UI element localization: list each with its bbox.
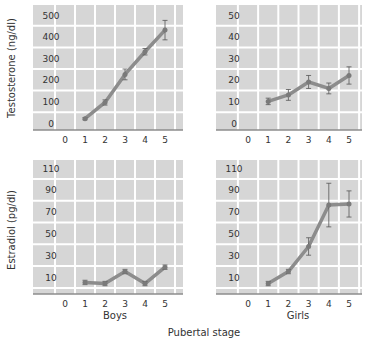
x-tick-label: 2 — [102, 135, 108, 145]
data-point — [306, 244, 311, 249]
y-tick-label: 50 — [45, 229, 57, 239]
y-tick-label: 20 — [228, 75, 240, 85]
x-tick-label: 5 — [346, 299, 352, 309]
figure: 0100200300400500012345010203040500123451… — [0, 0, 371, 341]
y-tick-label: 0 — [231, 119, 237, 129]
y-tick-label: 30 — [228, 54, 240, 64]
x-tick-label: 3 — [122, 299, 128, 309]
x-tick-label: 5 — [162, 135, 168, 145]
data-point — [123, 269, 128, 274]
x-tick-label: 3 — [306, 135, 312, 145]
x-tick-label: 1 — [82, 135, 88, 145]
data-point — [266, 281, 271, 286]
y-tick-label: 30 — [45, 251, 57, 261]
data-point — [163, 28, 168, 33]
data-point — [326, 203, 331, 208]
chart-panel-top-right: 01020304050012345 — [216, 5, 362, 145]
y-tick-label: 40 — [228, 32, 240, 42]
x-tick-label: 0 — [245, 135, 251, 145]
x-tick-label: 1 — [265, 135, 271, 145]
data-point — [347, 201, 352, 206]
y-tick-label: 50 — [228, 11, 240, 21]
x-axis-label: Pubertal stage — [168, 327, 241, 338]
y-tick-label: 500 — [42, 11, 59, 21]
x-tick-label: 0 — [62, 135, 68, 145]
data-point — [347, 73, 352, 78]
y-tick-label: 90 — [228, 185, 240, 195]
x-tick-label: 2 — [286, 299, 292, 309]
y-tick-label: 100 — [42, 97, 59, 107]
y-tick-label: 70 — [228, 207, 240, 217]
data-point — [286, 269, 291, 274]
data-point — [286, 92, 291, 97]
data-point — [143, 49, 148, 54]
x-tick-label: 4 — [142, 299, 148, 309]
x-tick-label: 5 — [162, 299, 168, 309]
y-tick-label: 400 — [42, 32, 59, 42]
chart-panel-bottom-left: 1030507090110012345 — [33, 160, 183, 309]
y-tick-label: 50 — [228, 229, 240, 239]
y-tick-label: 10 — [228, 97, 240, 107]
x-tick-label: 1 — [82, 299, 88, 309]
y-tick-label: 200 — [42, 75, 59, 85]
data-point — [163, 265, 168, 270]
y-tick-label: 30 — [228, 251, 240, 261]
column-label-boys: Boys — [103, 310, 127, 321]
y-tick-label: 70 — [45, 207, 57, 217]
data-point — [103, 281, 108, 286]
data-point — [103, 100, 108, 105]
data-point — [306, 79, 311, 84]
data-point — [326, 86, 331, 91]
x-tick-label: 0 — [62, 299, 68, 309]
y-tick-label: 10 — [45, 273, 57, 283]
x-tick-label: 3 — [122, 135, 128, 145]
x-tick-label: 5 — [346, 135, 352, 145]
data-point — [123, 72, 128, 77]
x-tick-label: 1 — [265, 299, 271, 309]
x-tick-label: 3 — [306, 299, 312, 309]
x-tick-label: 2 — [286, 135, 292, 145]
data-point — [266, 99, 271, 104]
x-tick-label: 2 — [102, 299, 108, 309]
y-axis-label-estradiol: Estradiol (pg/dl) — [6, 190, 17, 270]
y-tick-label: 110 — [42, 164, 59, 174]
y-tick-label: 0 — [48, 119, 54, 129]
y-axis-label-testosterone: Testosterone (ng/dl) — [6, 18, 17, 119]
column-label-girls: Girls — [287, 310, 310, 321]
data-point — [83, 280, 88, 285]
x-tick-label: 4 — [326, 135, 332, 145]
x-tick-label: 0 — [245, 299, 251, 309]
y-tick-label: 110 — [225, 164, 242, 174]
data-point — [83, 116, 88, 121]
x-tick-label: 4 — [326, 299, 332, 309]
data-point — [143, 281, 148, 286]
chart-panel-bottom-right: 1030507090110012345 — [216, 160, 362, 309]
chart-panel-top-left: 0100200300400500012345 — [33, 5, 183, 145]
y-tick-label: 10 — [228, 273, 240, 283]
y-tick-label: 90 — [45, 185, 57, 195]
y-tick-label: 300 — [42, 54, 59, 64]
x-tick-label: 4 — [142, 135, 148, 145]
